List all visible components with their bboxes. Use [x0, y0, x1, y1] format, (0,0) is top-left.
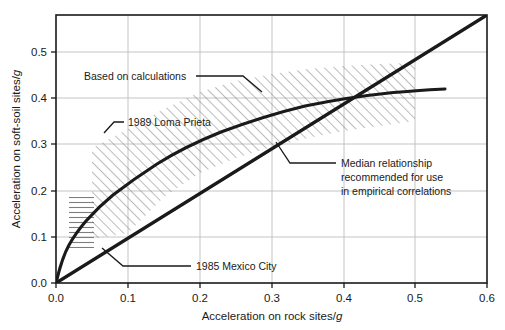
annotation-median-relationship-line-2: recommended for use — [341, 171, 443, 183]
x-axis-title-main: Acceleration on rock sites/ — [202, 310, 337, 322]
figure-container: 0.0 0.1 0.2 0.3 0.4 0.5 0.6 0.0 0.1 0.2 … — [0, 0, 505, 330]
annotation-loma-prieta: 1989 Loma Prieta — [128, 116, 211, 128]
y-tick-label-4: 0.4 — [31, 92, 48, 104]
x-axis-title-unit: g — [336, 310, 343, 322]
annotation-mexico-city: 1985 Mexico City — [196, 260, 277, 272]
y-axis-title: Acceleration on soft-soil sites/g — [10, 69, 22, 228]
x-axis-title: Acceleration on rock sites/g — [202, 310, 343, 322]
y-tick-label-3: 0.3 — [31, 138, 47, 150]
y-tick-label-1: 0.1 — [31, 231, 47, 243]
x-tick-label-0: 0.0 — [48, 292, 64, 304]
chart-svg: 0.0 0.1 0.2 0.3 0.4 0.5 0.6 0.0 0.1 0.2 … — [0, 0, 505, 330]
y-tick-label-5: 0.5 — [31, 46, 47, 58]
y-tick-label-0: 0.0 — [31, 277, 47, 289]
x-tick-label-1: 0.1 — [120, 292, 136, 304]
annotation-median-relationship-line-1: Median relationship — [341, 157, 432, 169]
x-tick-label-6: 0.6 — [479, 292, 495, 304]
y-tick-label-2: 0.2 — [31, 185, 47, 197]
annotation-based-on-calculations: Based on calculations — [84, 70, 186, 82]
x-tick-label-5: 0.5 — [407, 292, 423, 304]
x-tick-label-2: 0.2 — [192, 292, 208, 304]
y-axis-title-unit: g — [10, 69, 22, 76]
x-tick-label-3: 0.3 — [264, 292, 280, 304]
annotation-median-relationship-line-3: in empirical correlations — [341, 185, 451, 197]
y-axis-title-main: Acceleration on soft-soil sites/ — [10, 75, 22, 228]
x-tick-label-4: 0.4 — [336, 292, 353, 304]
